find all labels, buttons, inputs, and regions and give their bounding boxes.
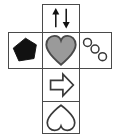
filled-heart-icon: [43, 33, 79, 68]
net-cell-center[interactable]: [42, 32, 80, 69]
down-arrow-icon: [63, 9, 70, 29]
net-cell-below-center[interactable]: [42, 68, 80, 102]
circle-2: [91, 45, 99, 53]
inverted-heart-outline-icon: [43, 102, 79, 133]
net-cell-top[interactable]: [42, 4, 80, 33]
circle-3: [99, 53, 107, 61]
cross-net-diagram: [0, 0, 118, 138]
net-cell-bottom[interactable]: [42, 101, 80, 134]
circle-1: [84, 38, 92, 46]
right-arrow-icon: [43, 69, 79, 101]
up-down-arrows-icon: [43, 5, 79, 32]
filled-pentagon-icon: [9, 33, 42, 68]
three-circles-icon: [80, 33, 111, 68]
up-arrow-icon: [52, 8, 59, 27]
net-cell-left[interactable]: [8, 32, 43, 69]
net-cell-right[interactable]: [79, 32, 112, 69]
